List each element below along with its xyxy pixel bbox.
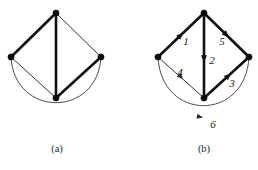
panel-a-vertex-right — [98, 54, 104, 60]
panel-b-group: 1 5 2 4 3 6 (b) — [155, 10, 252, 156]
graph-figure-svg: (a) — [0, 0, 258, 170]
panel-b-vertex-bottom — [201, 95, 207, 101]
panel-a-edge-left-top — [11, 13, 56, 57]
panel-a-vertex-top — [53, 10, 59, 16]
panel-b-edge-2-label: 2 — [209, 54, 215, 66]
figure-container: (a) — [0, 0, 258, 170]
panel-b-vertex-right — [246, 54, 252, 60]
panel-a-caption: (a) — [51, 143, 63, 155]
panel-a-vertex-bottom — [53, 95, 59, 101]
panel-b-edge-2-arrowhead — [201, 55, 207, 62]
panel-b-edge-6-arrowhead — [196, 114, 203, 120]
panel-b-edge-1-label: 1 — [183, 35, 189, 47]
panel-a-group: (a) — [8, 10, 104, 156]
panel-b-edge-6-label: 6 — [210, 118, 216, 130]
panel-b-edge-3-label: 3 — [228, 77, 235, 89]
panel-b-vertex-top — [201, 10, 207, 16]
panel-b-edge-4-label: 4 — [177, 66, 183, 78]
panel-a-edge-left-bottom — [11, 57, 56, 98]
panel-b-caption: (b) — [198, 143, 211, 155]
panel-b-edge-5-label: 5 — [219, 35, 225, 47]
panel-a-edge-bottom-right — [56, 57, 101, 98]
panel-a-edge-top-right — [56, 13, 101, 57]
panel-b-vertex-left — [155, 54, 161, 60]
panel-a-vertex-left — [8, 54, 14, 60]
